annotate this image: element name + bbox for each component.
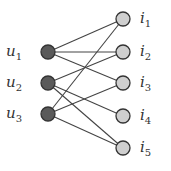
edge-u1-i1 [48, 19, 123, 52]
edge-u3-i5 [48, 114, 123, 148]
edges-layer [48, 19, 123, 148]
edge-u2-i5 [48, 83, 123, 148]
item-node-i2 [116, 45, 130, 59]
item-node-i4 [116, 109, 130, 123]
item-label-i4: i4 [140, 106, 151, 126]
bipartite-graph: u1u2u3i1i2i3i4i5 [0, 0, 171, 171]
user-node-u1 [41, 45, 55, 59]
item-node-i1 [116, 12, 130, 26]
user-node-u3 [41, 107, 55, 121]
item-label-i5: i5 [140, 138, 151, 158]
item-node-i5 [116, 141, 130, 155]
user-label-u3: u3 [6, 104, 22, 124]
nodes-layer [41, 12, 130, 155]
item-node-i3 [116, 76, 130, 90]
item-label-i2: i2 [140, 42, 151, 62]
item-label-i3: i3 [140, 73, 151, 93]
user-label-u1: u1 [6, 42, 22, 62]
item-label-i1: i1 [140, 9, 151, 29]
user-node-u2 [41, 76, 55, 90]
user-label-u2: u2 [6, 73, 22, 93]
